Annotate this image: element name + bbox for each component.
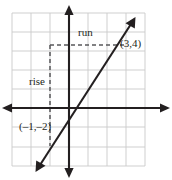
- line-upper-right-arrow-icon: [126, 17, 136, 29]
- rise-label: rise: [29, 76, 45, 87]
- x-axis-left-arrow-icon: [2, 103, 12, 112]
- y-axis-up-arrow-icon: [64, 5, 73, 15]
- slope-graph-figure: run rise (3,4) (–1,–2): [0, 0, 172, 180]
- y-axis-down-arrow-icon: [64, 168, 73, 178]
- y-axis: [64, 5, 73, 178]
- run-label: run: [78, 27, 93, 38]
- point-label-upper: (3,4): [120, 38, 141, 49]
- point-label-lower: (–1,–2): [19, 121, 51, 132]
- line-lower-left-arrow-icon: [36, 161, 46, 173]
- x-axis-right-arrow-icon: [160, 103, 170, 112]
